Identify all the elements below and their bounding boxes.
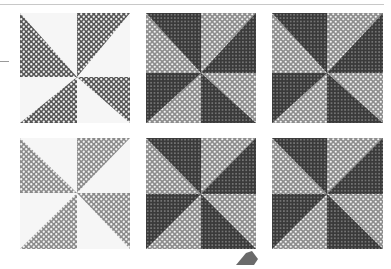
pinwheel-panel-2 [146,13,256,123]
top-rule [0,4,384,5]
margin-tick [0,61,9,62]
pinwheel-panel-1 [20,13,130,123]
scan-artifact [236,250,258,269]
pinwheel-panel-3 [272,13,383,123]
pinwheel-panel-4 [20,138,130,249]
pinwheel-panel-5 [146,138,256,249]
pinwheel-panel-6 [272,138,383,249]
